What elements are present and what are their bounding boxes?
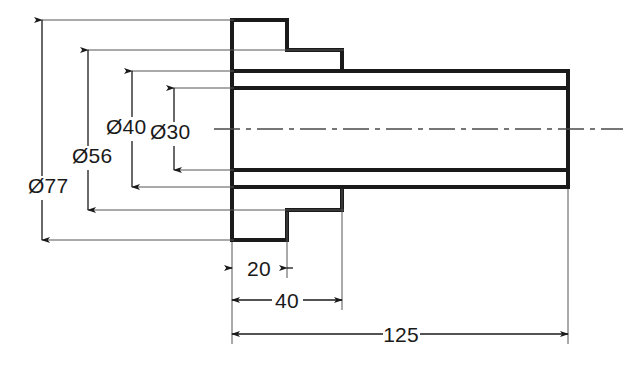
dim-label-d40: Ø40 (106, 115, 146, 138)
dim-label-d56: Ø56 (72, 144, 112, 167)
dim-label-d30: Ø30 (150, 120, 190, 143)
dim-label-125: 125 (383, 323, 419, 346)
dim-label-40: 40 (275, 289, 299, 312)
dim-label-d77: Ø77 (28, 174, 68, 197)
dimension-labels: Ø77 Ø56 Ø40 Ø30 20 40 125 (28, 115, 419, 346)
engineering-drawing-canvas: Ø77 Ø56 Ø40 Ø30 20 40 125 (0, 0, 623, 370)
dim-label-20: 20 (247, 257, 271, 280)
extension-lines (42, 20, 568, 344)
technical-drawing-svg: Ø77 Ø56 Ø40 Ø30 20 40 125 (0, 0, 623, 370)
upper-flange-profile (232, 20, 342, 71)
part-outline (232, 20, 568, 240)
